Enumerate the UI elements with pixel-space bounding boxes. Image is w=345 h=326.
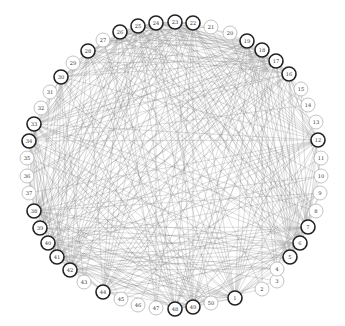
edge [193,23,235,298]
node-45[interactable]: 45 [114,292,128,306]
node-20[interactable]: 20 [223,26,237,40]
node-1[interactable]: 1 [228,291,242,305]
edge [27,23,193,176]
node-21[interactable]: 21 [204,20,218,34]
node-label: 24 [153,20,160,26]
node-14[interactable]: 14 [301,98,315,112]
node-label: 22 [190,20,197,26]
node-39[interactable]: 39 [33,221,47,235]
node-label: 36 [24,173,31,179]
node-label: 45 [118,296,125,302]
node-label: 47 [153,305,160,311]
node-label: 37 [26,190,33,196]
node-label: 40 [45,240,52,246]
node-11[interactable]: 11 [314,151,328,165]
node-label: 27 [100,37,107,43]
edge [289,74,300,243]
node-37[interactable]: 37 [22,186,36,200]
node-6[interactable]: 6 [293,236,307,250]
node-label: 6 [298,240,301,246]
node-10[interactable]: 10 [314,169,328,183]
node-8[interactable]: 8 [309,204,323,218]
node-label: 34 [26,138,33,144]
node-30[interactable]: 30 [54,70,68,84]
node-15[interactable]: 15 [294,82,308,96]
node-label: 8 [314,208,317,214]
node-label: 13 [313,119,320,125]
node-label: 42 [67,267,74,273]
edge [138,26,175,309]
node-label: 23 [172,19,179,25]
node-label: 46 [135,302,142,308]
node-label: 39 [37,225,44,231]
node-44[interactable]: 44 [96,285,110,299]
node-label: 33 [31,121,38,127]
node-13[interactable]: 13 [309,115,323,129]
node-label: 10 [318,173,325,179]
node-43[interactable]: 43 [77,275,91,289]
node-4[interactable]: 4 [270,262,284,276]
edge [29,32,120,141]
node-16[interactable]: 16 [282,67,296,81]
node-label: 35 [24,155,31,161]
node-label: 30 [58,74,65,80]
node-5[interactable]: 5 [283,250,297,264]
node-label: 49 [190,304,197,310]
node-28[interactable]: 28 [81,44,95,58]
node-label: 26 [117,29,124,35]
node-12[interactable]: 12 [311,133,325,147]
node-label: 38 [31,208,38,214]
node-48[interactable]: 48 [168,302,182,316]
node-label: 11 [318,155,325,161]
node-label: 16 [286,71,293,77]
node-26[interactable]: 26 [113,25,127,39]
node-42[interactable]: 42 [63,263,77,277]
node-22[interactable]: 22 [186,16,200,30]
edge [175,193,320,309]
node-label: 7 [306,224,309,230]
node-label: 2 [260,286,263,292]
node-7[interactable]: 7 [301,220,315,234]
edge [193,41,247,307]
node-46[interactable]: 46 [131,298,145,312]
node-label: 31 [47,89,54,95]
node-25[interactable]: 25 [131,19,145,33]
edge [193,227,308,307]
edge [57,257,277,269]
node-33[interactable]: 33 [27,117,41,131]
node-label: 19 [244,38,251,44]
node-18[interactable]: 18 [255,43,269,57]
node-40[interactable]: 40 [41,236,55,250]
node-label: 50 [208,300,215,306]
node-36[interactable]: 36 [20,169,34,183]
node-19[interactable]: 19 [240,34,254,48]
node-label: 18 [259,47,266,53]
node-29[interactable]: 29 [66,56,80,70]
node-47[interactable]: 47 [149,301,163,315]
node-label: 32 [38,105,45,111]
node-38[interactable]: 38 [27,204,41,218]
node-2[interactable]: 2 [255,282,269,296]
node-35[interactable]: 35 [20,151,34,165]
node-label: 21 [208,24,215,30]
node-label: 43 [81,279,88,285]
node-41[interactable]: 41 [50,250,64,264]
node-9[interactable]: 9 [313,186,327,200]
edge [57,140,318,257]
edge [29,140,318,141]
node-23[interactable]: 23 [168,15,182,29]
node-17[interactable]: 17 [269,54,283,68]
node-50[interactable]: 50 [204,296,218,310]
node-34[interactable]: 34 [22,134,36,148]
edge [29,141,211,303]
edge [34,176,321,211]
edge [57,89,301,257]
node-24[interactable]: 24 [149,16,163,30]
edge [88,51,103,292]
node-31[interactable]: 31 [43,85,57,99]
node-27[interactable]: 27 [96,33,110,47]
node-label: 17 [273,58,280,64]
node-49[interactable]: 49 [186,300,200,314]
node-label: 12 [315,137,322,143]
node-32[interactable]: 32 [34,101,48,115]
